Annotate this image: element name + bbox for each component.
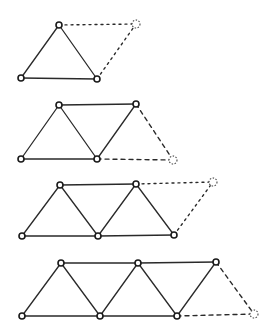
truss-node [18,75,24,81]
truss-edge [22,185,60,236]
truss-edge [98,235,174,236]
ghost-edge [97,24,136,79]
ghost-edge [136,104,173,160]
truss-node [171,232,177,238]
ghost-node [209,178,217,186]
truss-node [97,313,103,319]
truss-node [94,76,100,82]
truss-node [57,182,63,188]
truss-node [94,156,100,162]
truss-edge [59,25,97,79]
truss-node [133,101,139,107]
stage-2-figure [18,101,177,164]
truss-edge [21,78,97,79]
ghost-edge [216,262,254,314]
truss-node [58,260,64,266]
truss-node [213,259,219,265]
ghost-edge [59,24,136,25]
truss-edge [21,105,59,159]
truss-node [95,233,101,239]
truss-edge [61,263,100,316]
ghost-edge [136,182,213,184]
truss-edge [59,104,136,105]
stage-1-figure [18,20,140,82]
ghost-edge [97,159,173,160]
stage-4-figure [19,259,258,319]
truss-growth-diagram [0,0,266,327]
ghost-node [132,20,140,28]
truss-edge [60,184,136,185]
truss-edge [22,263,61,316]
stage-3-figure [19,178,217,239]
truss-node [133,181,139,187]
truss-edge [100,263,138,316]
ghost-edge [174,182,213,235]
ghost-node [169,156,177,164]
ghost-node [250,310,258,318]
truss-node [18,156,24,162]
truss-node [56,102,62,108]
truss-edge [97,104,136,159]
truss-node [19,233,25,239]
truss-node [56,22,62,28]
truss-node [19,313,25,319]
truss-edge [136,184,174,235]
truss-edge [177,262,216,316]
truss-edge [60,185,98,236]
truss-node [174,313,180,319]
ghost-edge [177,314,254,316]
truss-edge [21,25,59,78]
truss-edge [138,262,216,263]
truss-edge [98,184,136,236]
truss-edge [138,263,177,316]
truss-edge [59,105,97,159]
truss-node [135,260,141,266]
